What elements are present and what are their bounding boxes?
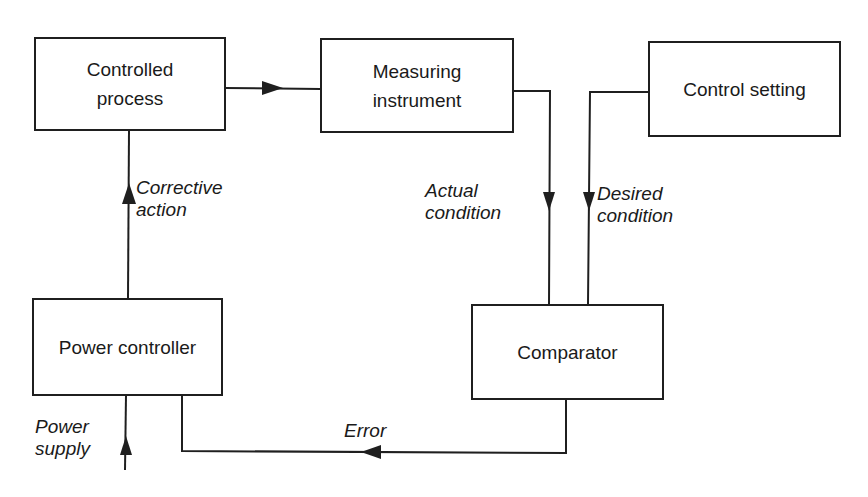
error-label: Error (344, 420, 386, 442)
label-line: Power (35, 416, 90, 438)
label-line: condition (425, 202, 501, 224)
controlled-process-block: Controlled process (34, 37, 226, 131)
label-line: Actual (425, 180, 501, 202)
arrowhead-up-icon (120, 436, 132, 455)
arrowhead-down-icon (583, 192, 595, 211)
arrowhead-left-icon (361, 445, 381, 459)
edge-supply-to-power (125, 395, 126, 470)
block-label-line: Measuring (373, 57, 462, 86)
label-line: action (136, 199, 223, 221)
label-line: supply (35, 438, 90, 460)
control-loop-diagram: Controlled process Measuring instrument … (0, 0, 868, 497)
power-controller-block: Power controller (32, 298, 223, 396)
power-supply-label: Power supply (35, 416, 90, 460)
edge-measuring-to-comparator (513, 91, 550, 304)
corrective-action-label: Corrective action (136, 177, 223, 221)
block-label-line: Control setting (683, 75, 806, 104)
block-label-line: instrument (373, 86, 462, 115)
label-line: Desired (597, 183, 673, 205)
block-label-line: process (87, 84, 174, 113)
arrowhead-down-icon (543, 192, 555, 211)
actual-condition-label: Actual condition (425, 180, 501, 224)
block-label-line: Power controller (59, 333, 196, 362)
label-line: Error (344, 420, 386, 442)
desired-condition-label: Desired condition (597, 183, 673, 227)
arrowhead-up-icon (122, 183, 136, 204)
edge-power-to-process (128, 130, 129, 298)
control-setting-block: Control setting (648, 41, 841, 137)
label-line: Corrective (136, 177, 223, 199)
measuring-instrument-block: Measuring instrument (320, 38, 514, 133)
label-line: condition (597, 205, 673, 227)
comparator-block: Comparator (471, 304, 664, 400)
block-label-line: Comparator (517, 338, 617, 367)
arrowhead-right-icon (262, 81, 283, 95)
block-label-line: Controlled (87, 55, 174, 84)
